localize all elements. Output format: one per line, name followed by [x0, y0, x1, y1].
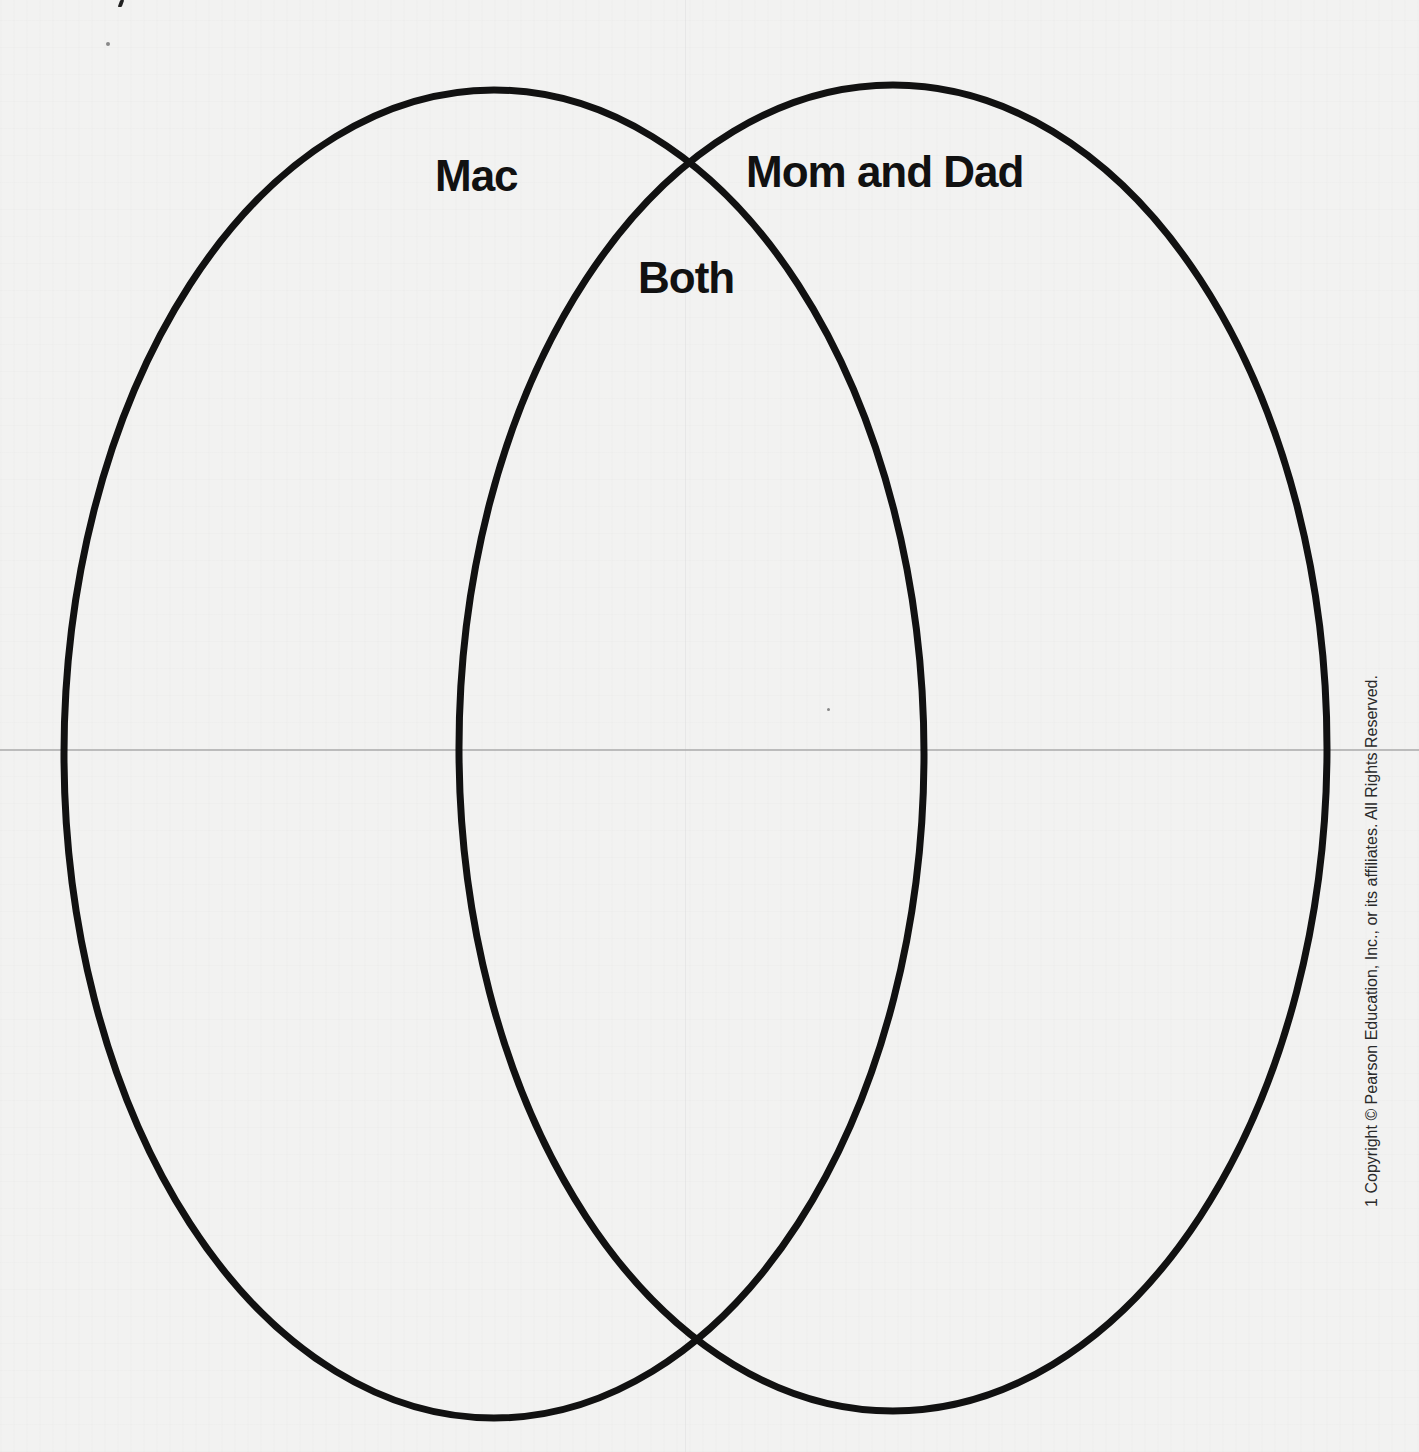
venn-circle-mac[interactable]	[64, 90, 924, 1418]
venn-label-mom-and-dad: Mom and Dad	[746, 150, 1023, 194]
venn-diagram	[0, 0, 1419, 1452]
venn-circle-mom-and-dad[interactable]	[459, 85, 1327, 1411]
venn-label-both: Both	[638, 256, 734, 300]
venn-label-mac: Mac	[435, 154, 518, 198]
copyright-notice: 1 Copyright © Pearson Education, Inc., o…	[1363, 675, 1381, 1207]
